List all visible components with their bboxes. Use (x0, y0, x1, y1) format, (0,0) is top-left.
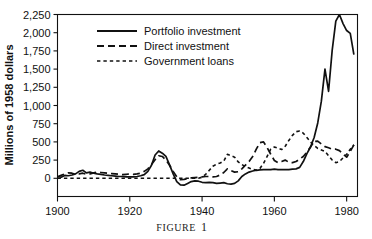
figure-caption-word: FIGURE (156, 222, 196, 233)
investment-line-chart: 02505007501,0001,2501,5001,7502,0002,250… (0, 0, 372, 239)
legend-label-portfolio-investment: Portfolio investment (144, 25, 241, 37)
legend-label-direct-investment: Direct investment (144, 40, 229, 52)
y-axis-title: Millions of 1958 dollars (3, 44, 15, 165)
figure-container: 02505007501,0001,2501,5001,7502,0002,250… (0, 0, 372, 239)
x-tick-label: 1960 (262, 205, 286, 217)
y-tick-label: 2,250 (23, 9, 51, 21)
x-tick-label: 1940 (190, 205, 214, 217)
y-tick-label: 1,250 (23, 81, 51, 93)
legend-label-government-loans: Government loans (144, 55, 234, 67)
y-tick-label: 1,500 (23, 63, 51, 75)
y-tick-label: 1,000 (23, 100, 51, 112)
x-tick-label: 1900 (45, 205, 69, 217)
figure-caption-number: 1 (201, 220, 208, 234)
y-tick-label: 250 (32, 154, 50, 166)
x-tick-label: 1920 (118, 205, 142, 217)
y-tick-label: 500 (32, 136, 50, 148)
y-tick-label: 750 (32, 118, 50, 130)
y-tick-label: 1,750 (23, 45, 51, 57)
y-tick-label: 0 (44, 172, 50, 184)
y-tick-label: 2,000 (23, 27, 51, 39)
x-tick-label: 1980 (334, 205, 358, 217)
